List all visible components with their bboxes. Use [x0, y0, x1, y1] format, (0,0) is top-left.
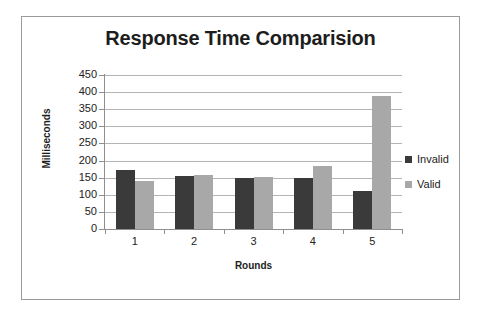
- x-axis-tick-label: 5: [352, 235, 392, 247]
- y-axis-tick-label: 0: [67, 223, 97, 234]
- y-axis-tick-label: 200: [67, 155, 97, 166]
- y-axis-title: Milliseconds: [41, 93, 52, 185]
- x-axis-tick: [343, 230, 344, 234]
- legend-label: Valid: [417, 178, 441, 190]
- bar-group: [175, 75, 213, 229]
- x-axis-title: Rounds: [105, 260, 402, 271]
- bar-group: [116, 75, 154, 229]
- y-axis-tick-label: 300: [67, 120, 97, 131]
- x-axis-tick-label: 4: [293, 235, 333, 247]
- y-axis-tick: [99, 109, 104, 110]
- chart-frame: Response Time Comparision 45040035030025…: [21, 16, 460, 300]
- y-axis-tick: [99, 229, 104, 230]
- bar-valid-round-2: [194, 175, 213, 229]
- bar-valid-round-1: [135, 181, 154, 229]
- y-axis-tick-labels: 450400350300250200150100500: [61, 17, 97, 301]
- chart-legend: InvalidValid: [405, 153, 461, 203]
- y-axis-tick-label: 150: [67, 172, 97, 183]
- bar-valid-round-4: [313, 166, 332, 229]
- chart-screenshot: Response Time Comparision 45040035030025…: [0, 0, 479, 319]
- x-axis-tick-label: 3: [234, 235, 274, 247]
- legend-swatch-icon: [405, 156, 412, 163]
- legend-swatch-icon: [405, 181, 412, 188]
- bar-valid-round-5: [372, 96, 391, 229]
- bar-group: [353, 75, 391, 229]
- x-axis-tick: [224, 230, 225, 234]
- y-axis-tick-label: 100: [67, 189, 97, 200]
- plot-area: [105, 75, 402, 229]
- bar-invalid-round-5: [353, 191, 372, 229]
- bar-valid-round-3: [254, 177, 273, 229]
- y-axis-tick-label: 250: [67, 137, 97, 148]
- y-axis-tick: [99, 143, 104, 144]
- y-axis-tick: [99, 212, 104, 213]
- y-axis-tick: [99, 178, 104, 179]
- y-axis-tick-label: 350: [67, 103, 97, 114]
- x-axis-tick: [283, 230, 284, 234]
- legend-item-valid[interactable]: Valid: [405, 178, 461, 190]
- bar-invalid-round-1: [116, 170, 135, 229]
- x-axis-tick-label: 1: [115, 235, 155, 247]
- y-axis-tick: [99, 75, 104, 76]
- y-axis-tick: [99, 126, 104, 127]
- bar-invalid-round-3: [235, 178, 254, 229]
- x-axis-tick-label: 2: [174, 235, 214, 247]
- y-axis-tick: [99, 92, 104, 93]
- y-axis-tick: [99, 195, 104, 196]
- x-axis-tick: [164, 230, 165, 234]
- y-axis-tick: [99, 161, 104, 162]
- y-axis-tick-label: 50: [67, 206, 97, 217]
- legend-item-invalid[interactable]: Invalid: [405, 153, 461, 165]
- x-axis-tick: [105, 230, 106, 234]
- bar-invalid-round-4: [294, 178, 313, 229]
- x-axis-line: [104, 229, 403, 230]
- y-axis-tick-label: 450: [67, 69, 97, 80]
- bar-invalid-round-2: [175, 176, 194, 229]
- bar-group: [294, 75, 332, 229]
- x-axis-tick: [402, 230, 403, 234]
- y-axis-tick-label: 400: [67, 86, 97, 97]
- bar-group: [235, 75, 273, 229]
- legend-label: Invalid: [417, 153, 449, 165]
